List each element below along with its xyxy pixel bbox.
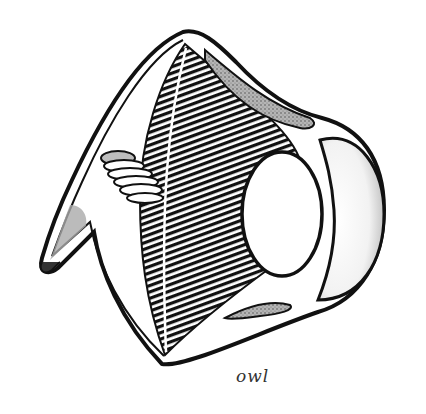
lens bbox=[242, 152, 322, 276]
figure-caption: owl bbox=[236, 366, 269, 386]
owl-eye-illustration bbox=[0, 0, 426, 414]
